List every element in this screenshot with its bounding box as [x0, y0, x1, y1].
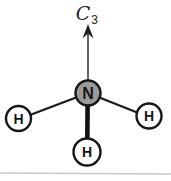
axis-label-subscript: 3: [91, 13, 98, 27]
axis-label-letter: C: [76, 2, 91, 24]
molecule-diagram-canvas: C 3 N H H H: [0, 0, 171, 181]
hydrogen-symbol-bottom: H: [82, 144, 92, 160]
hydrogen-symbol-left: H: [13, 111, 23, 127]
nitrogen-symbol: N: [82, 85, 94, 102]
molecule-diagram: C 3 N H H H: [0, 0, 171, 181]
c3-axis-label: C 3: [76, 2, 98, 27]
scan-edge-line: [0, 173, 171, 174]
hydrogen-symbol-right: H: [144, 108, 154, 124]
hydrogen-atom-right: H: [137, 104, 162, 129]
hydrogen-atom-left: H: [6, 106, 31, 131]
hydrogen-atom-bottom: H: [74, 139, 101, 166]
nitrogen-atom: N: [76, 81, 101, 106]
